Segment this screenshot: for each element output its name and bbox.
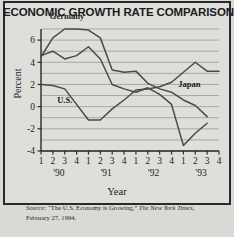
series-label-germany: Germany <box>50 11 85 21</box>
x-tick-label: 1 <box>134 156 139 166</box>
y-tick-label: 0 <box>30 102 35 112</box>
x-tick-label: 3 <box>157 156 162 166</box>
y-tick-label: 2 <box>30 80 35 90</box>
source-article: “The U.S. Economy is Growing,” <box>48 204 137 211</box>
x-tick-label: 4 <box>169 156 174 166</box>
x-tick-label: 3 <box>110 156 115 166</box>
x-tick-label: 4 <box>122 156 127 166</box>
x-tick-label: 3 <box>205 156 210 166</box>
x-tick-label: 2 <box>193 156 198 166</box>
x-year-label: '92 <box>148 168 159 178</box>
y-tick-label: 4 <box>30 58 35 68</box>
x-tick-label: 4 <box>217 156 222 166</box>
y-tick-label: -2 <box>27 124 35 134</box>
x-tick-label: 3 <box>62 156 67 166</box>
source-note: Source: “The U.S. Economy is Growing,” T… <box>26 203 211 223</box>
x-tick-label: 1 <box>39 156 44 166</box>
source-keyword: Source: <box>26 204 46 211</box>
x-year-label: '93 <box>196 168 207 178</box>
chart-plot-area: -4-202461234123412341234'90'91'92'93Germ… <box>0 0 234 237</box>
x-tick-label: 2 <box>145 156 150 166</box>
figure-economic-growth-rate-comparisons: ECONOMIC GROWTH RATE COMPARISONS Percent… <box>0 0 234 237</box>
x-tick-label: 2 <box>98 156 103 166</box>
x-tick-label: 4 <box>74 156 79 166</box>
series-label-us: U.S. <box>57 95 72 105</box>
x-tick-label: 2 <box>50 156 55 166</box>
series-label-japan: Japan <box>178 79 200 89</box>
source-publication: The New York Times <box>139 204 193 211</box>
x-tick-label: 1 <box>181 156 186 166</box>
x-tick-label: 1 <box>86 156 91 166</box>
x-year-label: '91 <box>101 168 112 178</box>
y-tick-label: 6 <box>30 35 35 45</box>
x-year-label: '90 <box>53 168 64 178</box>
y-tick-label: -4 <box>27 146 35 156</box>
